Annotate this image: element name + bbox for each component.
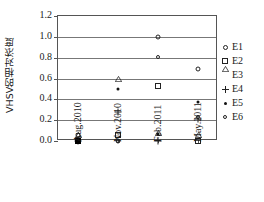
y-axis-tick [54, 120, 58, 121]
marker-open-circle-icon [196, 67, 201, 72]
legend-marker-plus-icon [221, 85, 229, 93]
legend-marker-open-circle-small-icon [221, 113, 229, 121]
marker-open-square-icon [222, 58, 228, 64]
y-tick-label: 0.8 [40, 52, 53, 62]
legend-item-e3[interactable]: E3 [221, 68, 264, 82]
y-tick-label: 0.2 [40, 114, 53, 124]
marker-open-circle-small-icon [223, 115, 227, 119]
legend-marker-open-square-icon [221, 57, 229, 65]
legend-item-e5[interactable]: E5 [221, 96, 264, 110]
legend-item-e4[interactable]: E4 [221, 82, 264, 96]
data-point [196, 67, 201, 72]
x-tick-label: May.2011 [192, 102, 203, 142]
legend-marker-filled-dot-icon [221, 99, 229, 107]
y-tick-label: 1.0 [40, 31, 53, 41]
y-axis-tick [54, 16, 58, 17]
gridline [58, 99, 216, 100]
y-tick-label: 0.0 [40, 135, 53, 145]
y-axis-title: VHSV的相对浓度 [2, 14, 18, 136]
gridline [58, 37, 216, 38]
legend-label: E3 [232, 70, 243, 80]
y-tick-label: 0.4 [40, 93, 53, 103]
x-tick-label: Feb.2011 [152, 105, 163, 142]
x-axis-tick-labels: Aug.2010Nov.2010Feb.2011May.2011 [57, 142, 217, 202]
y-tick-label: 0.6 [40, 73, 53, 83]
y-axis-tick [54, 79, 58, 80]
legend-label: E2 [232, 56, 243, 66]
marker-open-triangle-icon [222, 72, 228, 78]
gridline [58, 79, 216, 80]
chart-legend: E1E2E3E4E5E6 [221, 40, 264, 124]
legend-label: E6 [232, 112, 243, 122]
y-axis-tick-labels: 0.00.20.40.60.81.01.2 [18, 9, 54, 145]
data-point [156, 34, 161, 39]
marker-open-square-icon [155, 83, 161, 89]
data-point [156, 55, 160, 59]
legend-label: E5 [232, 98, 243, 108]
x-tick-label: Nov.2010 [112, 103, 123, 142]
marker-plus-icon [222, 86, 229, 93]
marker-open-circle-small-icon [156, 55, 160, 59]
y-tick-label: 1.2 [40, 10, 53, 20]
marker-open-circle-icon [156, 34, 161, 39]
legend-item-e1[interactable]: E1 [221, 40, 264, 54]
x-tick-label: Aug.2010 [72, 102, 83, 142]
marker-filled-dot-icon [117, 87, 120, 90]
y-axis-tick [54, 37, 58, 38]
data-point [117, 87, 120, 90]
gridline [58, 58, 216, 59]
legend-label: E1 [232, 42, 243, 52]
chart-figure: VHSV的相对浓度 0.00.20.40.60.81.01.2 Aug.2010… [0, 0, 264, 202]
data-point [155, 83, 161, 89]
y-axis-tick [54, 99, 58, 100]
marker-filled-dot-icon [224, 102, 227, 105]
legend-item-e6[interactable]: E6 [221, 110, 264, 124]
y-axis-tick [54, 58, 58, 59]
legend-marker-open-triangle-icon [221, 71, 229, 79]
legend-marker-open-circle-icon [221, 43, 229, 51]
marker-open-circle-icon [223, 45, 228, 50]
legend-label: E4 [232, 84, 243, 94]
